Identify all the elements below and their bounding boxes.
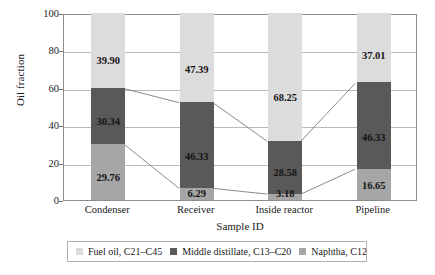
data-label: 39.90 (91, 55, 125, 66)
bar-segment[interactable]: 46.33 (357, 82, 391, 169)
legend-label: Middle distillate, C13–C20 (182, 246, 291, 257)
legend-swatch-icon (299, 248, 306, 255)
data-label: 3.18 (268, 188, 302, 199)
bar-segment[interactable]: 37.01 (357, 13, 391, 82)
bar-segment[interactable]: 46.33 (180, 102, 214, 189)
bar-segment[interactable]: 39.90 (91, 13, 125, 88)
legend-swatch-icon (76, 248, 83, 255)
data-label: 16.65 (357, 180, 391, 191)
y-tick-mark (59, 201, 63, 202)
bar-condenser[interactable]: 39.9030.3429.76 (91, 13, 125, 200)
legend: Fuel oil, C21–C45 Middle distillate, C13… (67, 241, 367, 262)
connector-line (213, 103, 267, 142)
data-label: 37.01 (357, 50, 391, 61)
bar-inside-reactor[interactable]: 68.2528.583.18 (268, 13, 302, 200)
data-label: 28.58 (268, 167, 302, 178)
y-tick-label: 60 (19, 84, 59, 94)
legend-item-naphtha[interactable]: Naphtha, C12– (299, 246, 367, 257)
y-tick-label: 40 (19, 121, 59, 131)
data-label: 47.39 (180, 64, 214, 75)
bar-segment[interactable]: 6.29 (180, 188, 214, 200)
y-tick-label: 80 (19, 46, 59, 56)
y-tick-label: 100 (19, 9, 59, 19)
legend-item-middle-distillate[interactable]: Middle distillate, C13–C20 (170, 246, 291, 257)
bar-receiver[interactable]: 47.3946.336.29 (180, 13, 214, 200)
data-label: 30.34 (91, 116, 125, 127)
data-label: 46.33 (180, 151, 214, 162)
legend-label: Fuel oil, C21–C45 (88, 246, 162, 257)
bar-pipeline[interactable]: 37.0146.3316.65 (357, 13, 391, 200)
connector-line (213, 188, 267, 194)
bar-segment[interactable]: 47.39 (180, 13, 214, 102)
plot-area: 39.9030.3429.7647.3946.336.2968.2528.583… (63, 14, 417, 201)
connector-line (301, 83, 355, 141)
stacked-bar-chart: Oil fraction 100806040200 39.9030.3429.7… (0, 0, 435, 275)
x-tick-label: Pipeline (318, 204, 428, 216)
legend-item-fuel-oil[interactable]: Fuel oil, C21–C45 (76, 246, 162, 257)
legend-swatch-icon (170, 248, 177, 255)
bar-segment[interactable]: 3.18 (268, 194, 302, 200)
x-axis-title: Sample ID (63, 220, 417, 232)
connector-line (125, 89, 179, 103)
data-label: 68.25 (268, 92, 302, 103)
bar-segment[interactable]: 28.58 (268, 141, 302, 194)
bar-segment[interactable]: 30.34 (91, 88, 125, 145)
bar-segment[interactable]: 29.76 (91, 144, 125, 200)
connector-line (301, 169, 355, 194)
data-label: 6.29 (180, 188, 214, 199)
y-tick-label: 20 (19, 159, 59, 169)
bar-segment[interactable]: 16.65 (357, 169, 391, 200)
bar-segment[interactable]: 68.25 (268, 13, 302, 141)
legend-label: Naphtha, C12– (311, 246, 367, 257)
data-label: 29.76 (91, 172, 125, 183)
connector-line (125, 145, 179, 188)
data-label: 46.33 (357, 132, 391, 143)
